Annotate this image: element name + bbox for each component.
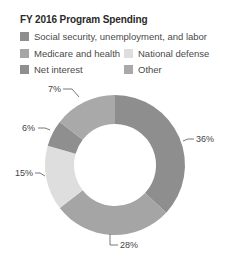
leader-line-social	[183, 139, 194, 141]
value-label-medicare: 28%	[120, 240, 138, 250]
slice-social-security	[115, 95, 185, 213]
leader-line-medicare	[110, 234, 118, 245]
leader-line-defense	[35, 173, 45, 176]
leader-line-interest	[38, 128, 50, 130]
value-label-defense: 15%	[15, 168, 33, 178]
value-label-social: 36%	[196, 134, 214, 144]
value-label-interest: 6%	[22, 123, 35, 133]
value-label-other: 7%	[48, 84, 61, 94]
leader-line-other	[63, 89, 79, 97]
donut-chart: 36% 28% 15% 6% 7%	[0, 0, 226, 262]
